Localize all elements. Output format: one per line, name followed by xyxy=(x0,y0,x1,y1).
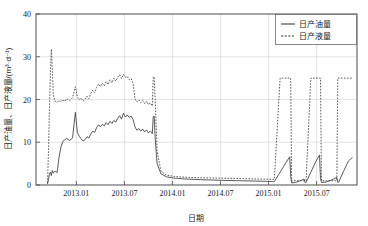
y-tick-label: 10 xyxy=(23,138,31,147)
x-tick-label: 2015.07 xyxy=(304,189,330,198)
x-tick-label: 2013.07 xyxy=(111,189,137,198)
chart-page: 010203040 2013.012013.072014.012014.0720… xyxy=(0,0,368,226)
x-axis-tick-labels: 2013.012013.072014.012014.072015.012015.… xyxy=(63,189,329,198)
legend-label-liquid-rate: 日产液量 xyxy=(299,31,331,41)
x-tick-label: 2014.07 xyxy=(208,189,234,198)
y-axis-tick-labels: 010203040 xyxy=(23,10,31,190)
y-tick-label: 40 xyxy=(23,10,31,19)
x-tick-label: 2013.01 xyxy=(63,189,89,198)
x-axis-title: 日期 xyxy=(188,214,204,223)
y-tick-label: 0 xyxy=(27,181,31,190)
x-tick-label: 2015.01 xyxy=(256,189,282,198)
legend-label-oil-rate: 日产油量 xyxy=(299,19,331,29)
x-tick-label: 2014.01 xyxy=(159,189,185,198)
y-tick-label: 20 xyxy=(23,96,31,105)
production-rate-line-chart: 010203040 2013.012013.072014.012014.0720… xyxy=(0,0,368,226)
y-axis-title: 日产油量、日产液量/(m³·d⁻¹) xyxy=(3,47,13,150)
y-tick-label: 30 xyxy=(23,53,31,62)
chart-legend: 日产油量 日产液量 xyxy=(276,15,357,45)
